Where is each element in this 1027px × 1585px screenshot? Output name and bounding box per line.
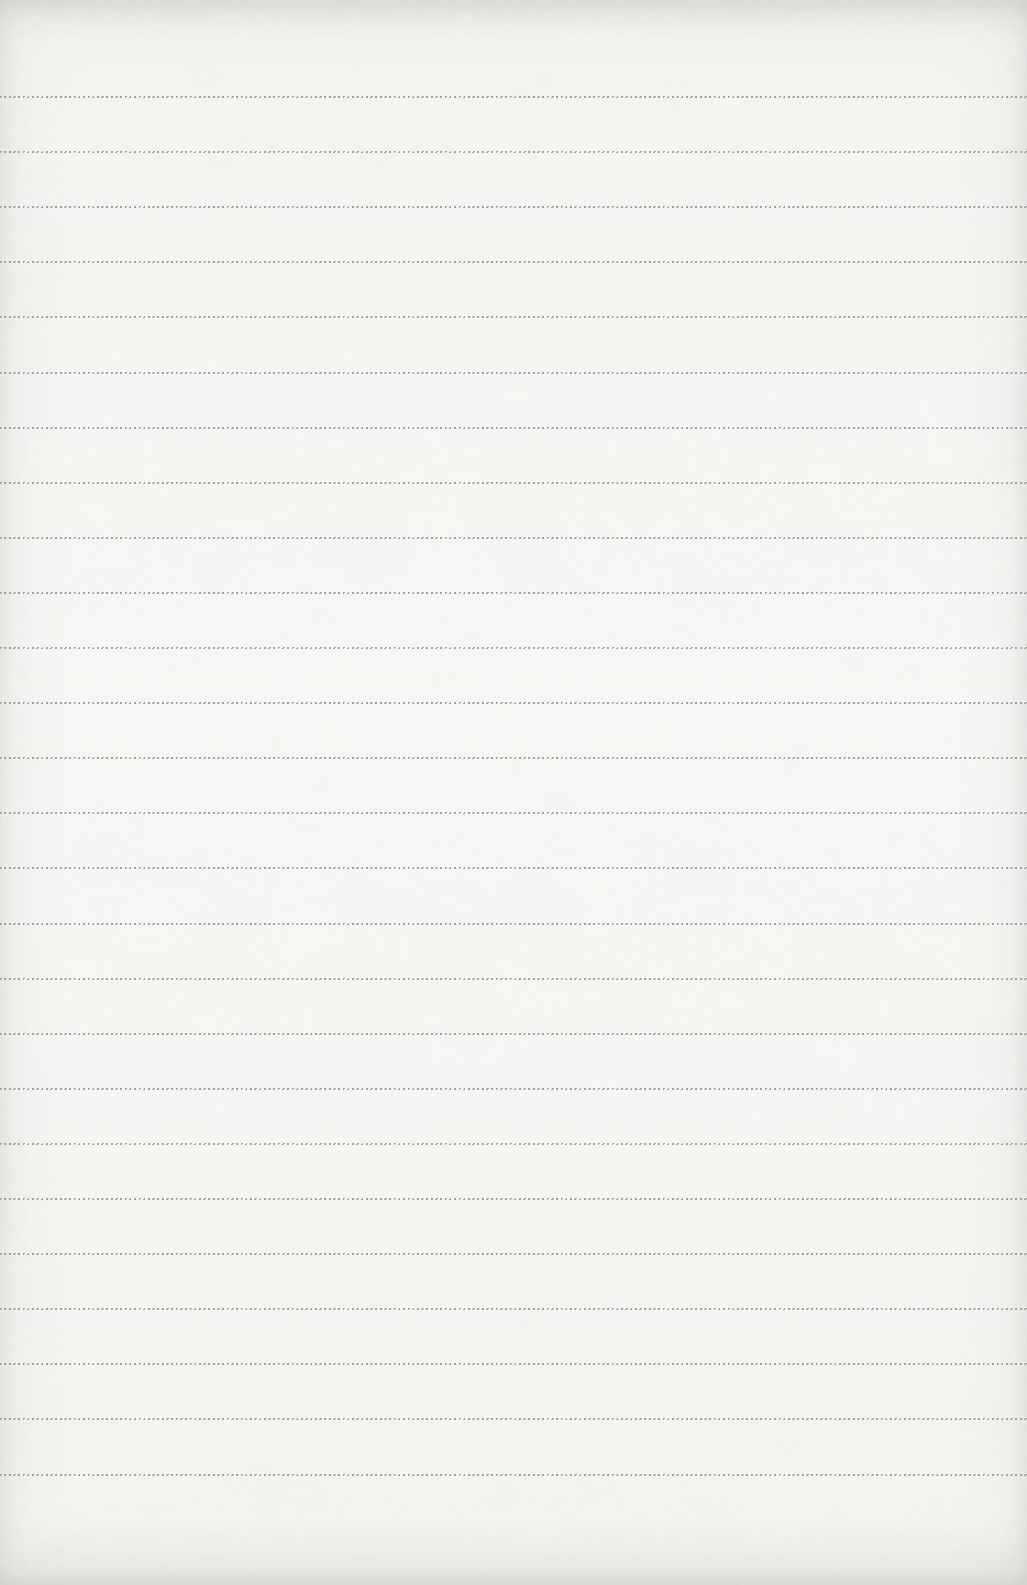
ruled-line	[0, 647, 1027, 649]
ruled-line	[0, 1308, 1027, 1310]
ruled-line	[0, 151, 1027, 153]
ruled-line	[0, 867, 1027, 869]
ruled-line	[0, 537, 1027, 539]
ruled-line	[0, 1363, 1027, 1365]
ruled-line	[0, 427, 1027, 429]
ruled-line	[0, 1418, 1027, 1420]
ruled-line	[0, 1253, 1027, 1255]
ruled-line	[0, 316, 1027, 318]
ruled-line	[0, 482, 1027, 484]
ruled-line	[0, 1033, 1027, 1035]
ruled-lines	[0, 0, 1027, 1585]
ruled-line	[0, 1198, 1027, 1200]
ruled-line	[0, 1143, 1027, 1145]
ruled-line	[0, 96, 1027, 98]
ruled-line	[0, 702, 1027, 704]
ruled-line	[0, 757, 1027, 759]
ruled-line	[0, 372, 1027, 374]
ruled-line	[0, 592, 1027, 594]
ruled-line	[0, 261, 1027, 263]
ruled-line	[0, 206, 1027, 208]
ruled-line	[0, 812, 1027, 814]
ruled-line	[0, 978, 1027, 980]
notebook-page	[0, 0, 1027, 1585]
ruled-line	[0, 1088, 1027, 1090]
ruled-line	[0, 1474, 1027, 1476]
ruled-line	[0, 923, 1027, 925]
